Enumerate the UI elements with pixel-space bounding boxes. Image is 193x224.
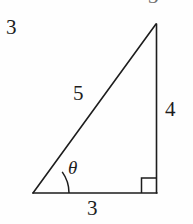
hypotenuse-line [33, 24, 156, 193]
triangle-figure: 3 3 5 4 3 θ [0, 0, 193, 224]
top-left-label: 3 [6, 17, 17, 38]
angle-theta-label: θ [68, 158, 77, 177]
adjacent-side-label: 3 [87, 198, 98, 219]
cutoff-top-label: 3 [148, 0, 159, 7]
right-angle-icon [142, 178, 157, 193]
opposite-side-label: 4 [165, 99, 176, 120]
hypotenuse-label: 5 [73, 83, 84, 104]
